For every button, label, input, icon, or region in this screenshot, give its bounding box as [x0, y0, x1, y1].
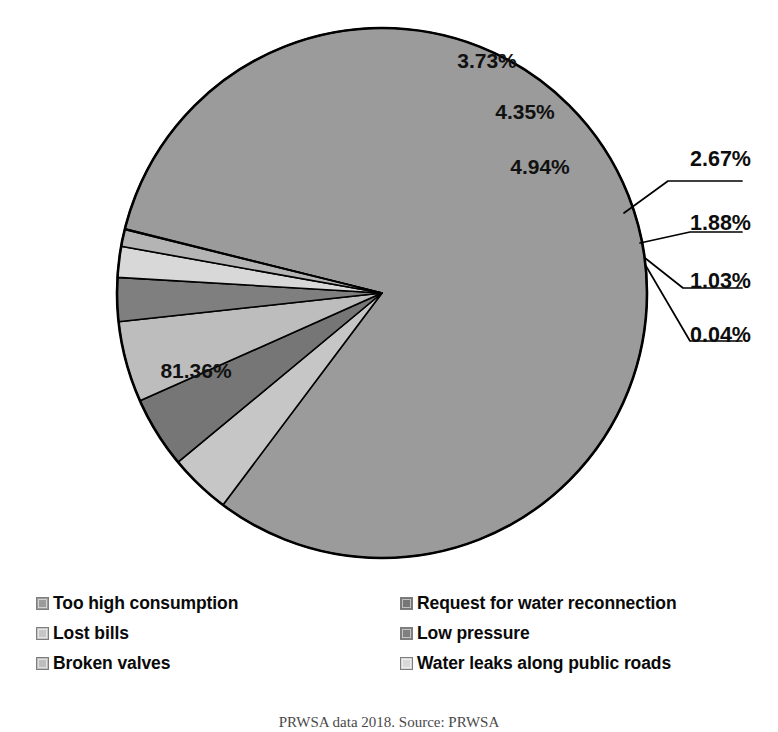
legend: Too high consumption Request for water r…: [36, 588, 746, 678]
pie-label-low-pressure: 2.67%: [690, 147, 751, 171]
leader-line-low-pressure: [624, 181, 742, 213]
legend-item-label: Broken valves: [53, 653, 170, 674]
legend-swatch-icon: [36, 657, 49, 670]
legend-item-low-pressure[interactable]: Low pressure: [400, 618, 746, 648]
pie-slices: [117, 28, 647, 558]
legend-item-request-for-water-reconnection[interactable]: Request for water reconnection: [400, 588, 746, 618]
legend-row: Lost bills Low pressure: [36, 618, 746, 648]
legend-row: Broken valves Water leaks along public r…: [36, 648, 746, 678]
legend-item-label: Too high consumption: [53, 593, 238, 614]
legend-swatch-icon: [36, 597, 49, 610]
pie-label-lost-bills: 3.73%: [457, 49, 517, 72]
pie-label-broken-valves: 4.94%: [510, 155, 570, 178]
pie-label-too-high-consumption: 81.36%: [160, 359, 232, 382]
legend-swatch-icon: [400, 597, 413, 610]
legend-item-broken-valves[interactable]: Broken valves: [36, 648, 400, 678]
legend-row: Too high consumption Request for water r…: [36, 588, 746, 618]
legend-item-water-leaks-along-public-roads[interactable]: Water leaks along public roads: [400, 648, 746, 678]
pie-label-small-slice-1-03: 1.03%: [690, 269, 751, 293]
pie-label-water-leaks-along-public-roads: 1.88%: [690, 211, 751, 235]
legend-item-label: Low pressure: [417, 623, 530, 644]
legend-item-label: Lost bills: [53, 623, 129, 644]
legend-swatch-icon: [36, 627, 49, 640]
legend-item-too-high-consumption[interactable]: Too high consumption: [36, 588, 400, 618]
pie-chart-figure: 81.36%3.73%4.35%4.94%2.67%1.88%1.03%0.04…: [0, 0, 778, 732]
legend-swatch-icon: [400, 627, 413, 640]
legend-item-lost-bills[interactable]: Lost bills: [36, 618, 400, 648]
pie-label-request-for-water-reconnection: 4.35%: [495, 100, 555, 123]
legend-swatch-icon: [400, 657, 413, 670]
legend-item-label: Request for water reconnection: [417, 593, 677, 614]
figure-caption: PRWSA data 2018. Source: PRWSA: [0, 714, 778, 731]
legend-item-label: Water leaks along public roads: [417, 653, 671, 674]
pie-label-small-slice-0-04: 0.04%: [690, 323, 751, 347]
